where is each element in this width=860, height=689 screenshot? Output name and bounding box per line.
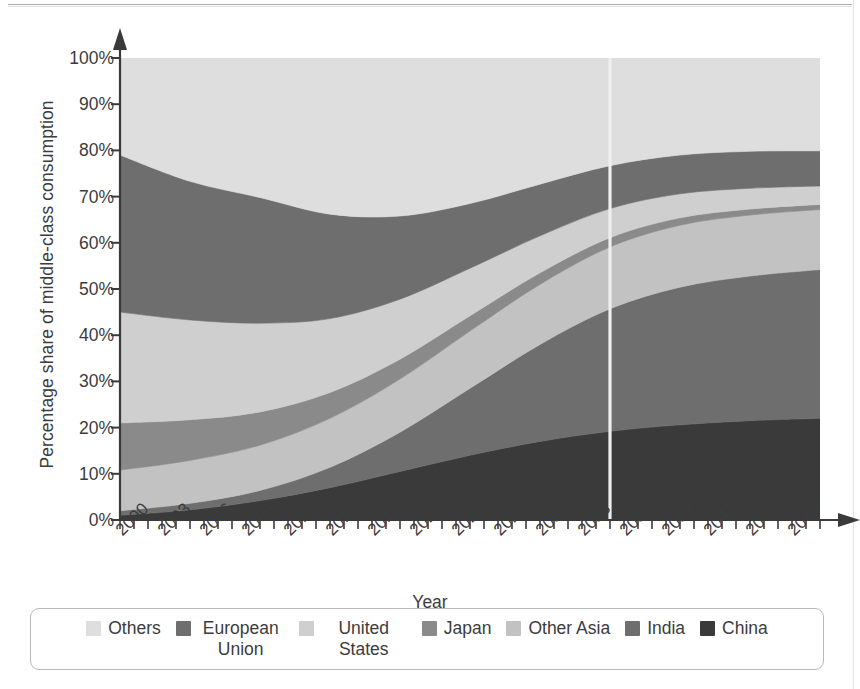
- legend-swatch-icon: [700, 621, 715, 636]
- y-axis-tick-label: 40%: [44, 325, 114, 346]
- y-axis-tick-label: 100%: [44, 48, 114, 69]
- y-axis-tick-label: 80%: [44, 140, 114, 161]
- legend-item-label: European Union: [198, 618, 284, 660]
- chart-page: Percentage share of middle-class consump…: [0, 0, 860, 689]
- legend-item-china[interactable]: China: [700, 618, 768, 639]
- y-axis-tick-label: 50%: [44, 279, 114, 300]
- y-axis-tick-labels: 0%10%20%30%40%50%60%70%80%90%100%: [40, 58, 114, 520]
- legend-swatch-icon: [506, 621, 521, 636]
- x-axis-tick-labels: 2000200320062009201220152018202120242027…: [120, 526, 840, 596]
- y-axis-tick-label: 70%: [44, 186, 114, 207]
- legend-swatch-icon: [176, 621, 191, 636]
- legend-swatch-icon: [86, 621, 101, 636]
- legend-item-other-asia[interactable]: Other Asia: [506, 618, 610, 639]
- legend-item-united-states[interactable]: United States: [299, 618, 407, 660]
- legend-item-label: United States: [321, 618, 407, 660]
- y-axis-arrow: [113, 28, 127, 50]
- y-axis-tick-label: 60%: [44, 232, 114, 253]
- y-axis-tick-label: 30%: [44, 371, 114, 392]
- legend-item-japan[interactable]: Japan: [422, 618, 492, 639]
- legend-item-label: Other Asia: [528, 618, 610, 639]
- plot-area: [120, 58, 820, 520]
- page-top-rule-secondary: [8, 6, 852, 7]
- legend-item-label: China: [722, 618, 768, 639]
- stacked-area-plot: [120, 58, 820, 520]
- y-axis-tick-label: 0%: [44, 510, 114, 531]
- legend-swatch-icon: [299, 621, 314, 636]
- legend-swatch-icon: [422, 621, 437, 636]
- legend-item-label: India: [647, 618, 685, 639]
- legend-item-india[interactable]: India: [625, 618, 685, 639]
- legend-swatch-icon: [625, 621, 640, 636]
- legend-item-others[interactable]: Others: [86, 618, 161, 639]
- y-axis-tick-label: 90%: [44, 94, 114, 115]
- chart-legend: OthersEuropean UnionUnited StatesJapanOt…: [30, 608, 824, 670]
- page-top-rule: [8, 4, 852, 5]
- legend-item-label: Japan: [444, 618, 492, 639]
- legend-item-european-union[interactable]: European Union: [176, 618, 284, 660]
- x-axis-arrow: [838, 513, 860, 527]
- legend-item-label: Others: [108, 618, 161, 639]
- stacked-area-figure: Percentage share of middle-class consump…: [0, 14, 860, 600]
- y-axis-tick-label: 20%: [44, 417, 114, 438]
- y-axis-tick-label: 10%: [44, 463, 114, 484]
